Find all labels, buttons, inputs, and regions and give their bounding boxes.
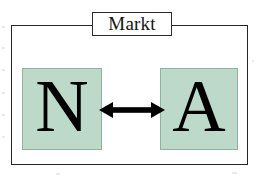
entity-box-nachfrage: N — [22, 68, 102, 150]
scan-artifact — [2, 69, 5, 71]
entity-letter-n: N — [35, 69, 88, 143]
scan-artifact — [2, 92, 5, 94]
frame-label-markt: Markt — [92, 12, 172, 36]
scan-artifact — [2, 26, 5, 28]
frame-label-text: Markt — [108, 14, 155, 33]
scan-artifact — [232, 172, 237, 174]
entity-box-angebot: A — [160, 68, 238, 150]
double-arrow-icon — [99, 98, 165, 122]
diagram-canvas: Markt N A — [0, 0, 262, 181]
scan-artifact — [2, 47, 5, 49]
scan-artifact — [252, 60, 254, 62]
scan-artifact — [56, 173, 60, 175]
entity-letter-a: A — [172, 69, 225, 143]
scan-artifact — [2, 114, 5, 116]
scan-artifact — [2, 136, 5, 138]
